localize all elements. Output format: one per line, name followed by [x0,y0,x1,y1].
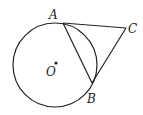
label-b: B [86,92,96,106]
chord-ab [63,23,92,83]
geometry-diagram: A C B O [0,0,143,115]
label-a: A [48,8,58,22]
label-c: C [128,22,137,36]
label-o: O [46,65,56,79]
segment-bc [92,28,126,83]
